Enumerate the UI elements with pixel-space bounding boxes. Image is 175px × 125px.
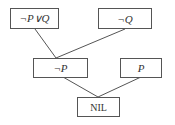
node-label: ¬Q <box>117 13 132 25</box>
node-label: ¬P <box>53 62 67 74</box>
node-p: P <box>120 58 162 78</box>
node-not-q: ¬Q <box>98 8 152 29</box>
edge-n4-n5 <box>98 77 141 97</box>
node-label: P <box>138 62 145 74</box>
edge-n1-n3 <box>35 29 56 58</box>
node-not-p: ¬P <box>33 58 88 78</box>
edge-n3-n5 <box>63 77 98 97</box>
node-nil: NIL <box>77 97 120 117</box>
edge-n2-n3 <box>56 29 125 58</box>
node-not-p-or-q: ¬P∨Q <box>10 8 59 29</box>
node-label: NIL <box>90 102 107 113</box>
node-label: ¬P∨Q <box>19 12 49 25</box>
